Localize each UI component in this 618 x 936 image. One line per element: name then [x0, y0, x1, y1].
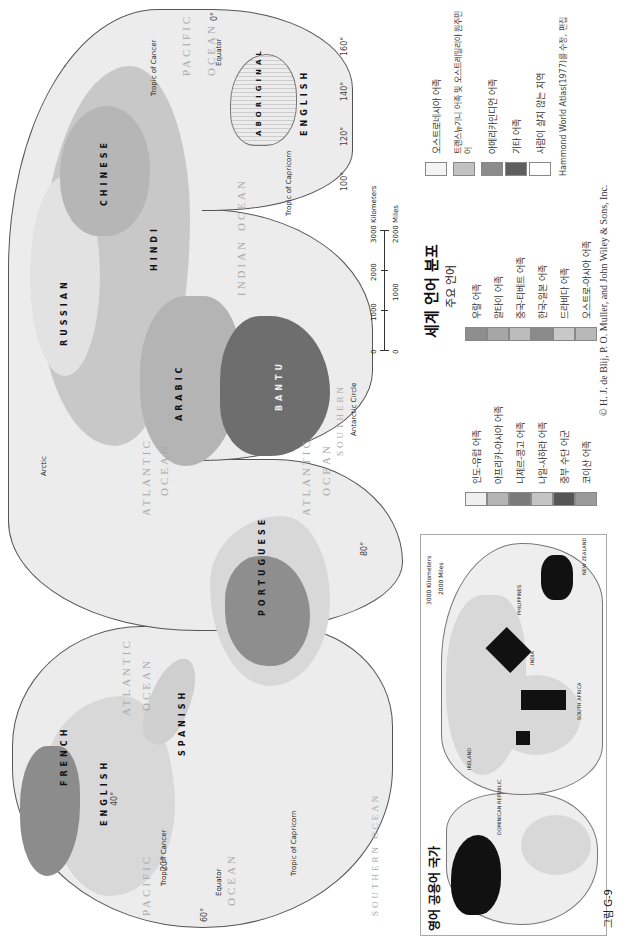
scale-km: 3000 Kilometers — [370, 185, 378, 243]
legend-swatch — [531, 492, 553, 506]
degree-label: 160° — [340, 37, 349, 56]
ocean-label-pacific: PACIFIC — [180, 14, 192, 76]
legend-swatch — [553, 492, 575, 506]
lang-label: ENGLISH — [300, 69, 309, 136]
ocean-label: OCEAN — [158, 443, 170, 496]
ocean-label-atlantic: ATLANTIC — [140, 438, 152, 516]
land-australia — [230, 54, 297, 146]
inset-nigeria — [516, 731, 530, 745]
line-label-equator: Equator — [215, 39, 223, 67]
world-language-map: ENGLISH SPANISH PORTUGUESE FRENCH RUSSIA… — [0, 0, 440, 936]
inset-australia — [541, 555, 573, 600]
legend-item: 중국-티베트 어족 — [509, 257, 531, 341]
lang-label: RUSSIAN — [60, 278, 69, 346]
legend-swatch — [531, 327, 553, 341]
inset-africa — [491, 675, 581, 755]
legend-item: 코이산 어족 — [575, 441, 597, 506]
scale-mi: 0 — [392, 350, 400, 354]
degree-label: 80° — [360, 542, 369, 556]
inset-scale-mi: 2000 Miles — [437, 562, 444, 595]
scale-km: 1000 — [370, 303, 378, 321]
legend-swatch — [465, 492, 487, 506]
degree-label: 20° — [160, 857, 169, 871]
inset-usa — [451, 835, 501, 915]
legend-item: 기타 어족 — [505, 119, 527, 176]
line-label-tropic-of-cancer: Tropic of Cancer — [150, 40, 158, 96]
legend-swatch — [505, 162, 527, 176]
ocean-label-pacific: PACIFIC — [140, 854, 152, 916]
inset-label: IRELAND — [466, 748, 472, 770]
main-scale-bar: 0 1000 2000 3000 Kilometers 0 1000 2000 … — [370, 211, 410, 361]
scale-mi: 1000 — [392, 283, 400, 301]
degree-label: 120° — [340, 127, 349, 146]
line-label-arctic: Arctic — [40, 456, 48, 476]
figure-number: 그림 G-9 — [600, 889, 615, 928]
ocean-label-atlantic: ATLANTIC — [120, 638, 132, 716]
lang-label: PORTUGUESE — [258, 516, 267, 616]
inset-title: 영어 공용어 국가 — [425, 846, 442, 931]
legend-item: 알타이 어족 — [487, 276, 509, 341]
legend-swatch — [529, 162, 551, 176]
lang-label: ABORIGINAL — [255, 47, 263, 136]
lang-label: HINDI — [150, 225, 159, 271]
ocean-label-southern: SOUTHERN OCEAN — [370, 793, 380, 916]
degree-label: 140° — [340, 82, 349, 101]
lang-label: BANTU — [275, 360, 284, 411]
lang-label: FRENCH — [60, 726, 69, 786]
source-note: Hammond World Atlas(1977)를 수정, 편집 — [557, 17, 568, 176]
legend-item: 오스트로네시아 어족 — [425, 79, 447, 176]
legend-item: 우랄 어족 — [465, 284, 487, 341]
legend-item: 아메리카인디언 어족 — [481, 79, 503, 176]
ocean-label: OCEAN — [235, 178, 247, 231]
line-label-equator: Equator — [215, 869, 223, 897]
inset-scale-km: 3000 Kilometers — [425, 556, 432, 605]
ocean-label: OCEAN — [140, 658, 152, 711]
legend: 인도-유럽 어족 아프리카-아시아 어족 니제르-콩고 어족 나일-사하라 어족… — [465, 6, 595, 506]
legend-item: 드라비다 어족 — [553, 268, 575, 341]
ocean-label-atlantic: ATLANTIC — [300, 438, 312, 516]
lang-label: SPANISH — [178, 689, 187, 756]
legend-swatch — [481, 162, 503, 176]
lang-label: ENGLISH — [100, 759, 109, 826]
inset-south-america — [521, 815, 591, 875]
degree-label: 0° — [210, 12, 219, 21]
lang-label: ARABIC — [175, 364, 184, 422]
map-subtitle: 주요 언어 — [442, 265, 458, 309]
legend-swatch — [425, 162, 447, 176]
legend-item: 아프리카-아시아 어족 — [487, 406, 509, 506]
legend-swatch — [509, 327, 531, 341]
degree-label: 100° — [340, 172, 349, 191]
legend-swatch — [575, 492, 597, 506]
inset-label: DOMINICAN REPUBLIC — [496, 779, 502, 835]
legend-swatch — [509, 492, 531, 506]
legend-swatch — [575, 327, 597, 341]
inset-label: INDIA — [529, 651, 535, 665]
legend-item: 트랜스뉴기니 어족 및 오스트레일리아 원주민어 — [453, 6, 475, 176]
line-label-tropic-of-capricorn: Tropic of Capricorn — [290, 811, 298, 876]
legend-swatch — [487, 492, 509, 506]
copyright: © H. J. de Blij, P. O. Muller, and John … — [598, 185, 609, 416]
map-title: 세계 언어 분포 — [420, 244, 441, 338]
ocean-label-southern: SOUTHERN — [335, 384, 345, 456]
rotated-page: ENGLISH SPANISH PORTUGUESE FRENCH RUSSIA… — [0, 0, 618, 936]
lang-label: CHINESE — [100, 139, 109, 206]
legend-swatch — [553, 327, 575, 341]
legend-swatch — [465, 327, 487, 341]
scale-km: 2000 — [370, 263, 378, 281]
legend-item: 한국-일본 어족 — [531, 265, 553, 341]
legend-item: 니제르-콩고 어족 — [509, 422, 531, 506]
legend-item: 사람이 살지 않는 지역 — [529, 73, 551, 176]
ocean-label: OCEAN — [225, 853, 237, 906]
scale-mi: 2000 Miles — [392, 205, 400, 243]
degree-label: 40° — [110, 792, 119, 806]
scale-km: 0 — [370, 350, 378, 354]
line-label-tropic-of-capricorn: Tropic of Capricorn — [285, 151, 293, 216]
legend-item: 인도-유럽 어족 — [465, 430, 487, 506]
inset-map-english-official: 영어 공용어 국가 DOMINICAN REPUBLIC IRELAND IND… — [420, 534, 607, 936]
legend-item: 중부 수단 어군 — [553, 430, 575, 506]
degree-label: 60° — [200, 908, 209, 922]
legend-item: 오스트로-아시아 어족 — [575, 241, 597, 341]
legend-swatch — [487, 327, 509, 341]
ocean-label: OCEAN — [320, 443, 332, 496]
ocean-label-indian: INDIAN — [235, 239, 247, 296]
